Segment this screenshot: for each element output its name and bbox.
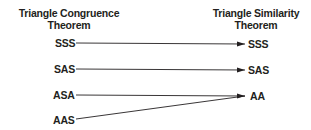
arrow-asa-to-aa bbox=[76, 95, 245, 96]
theorem-mapping-diagram: Triangle Congruence Theorem Triangle Sim… bbox=[0, 0, 311, 130]
arrows-layer bbox=[0, 0, 311, 130]
arrow-sss-to-sss bbox=[76, 43, 245, 44]
arrow-aas-to-aa bbox=[76, 96, 245, 119]
arrow-sas-to-sas bbox=[76, 69, 245, 70]
